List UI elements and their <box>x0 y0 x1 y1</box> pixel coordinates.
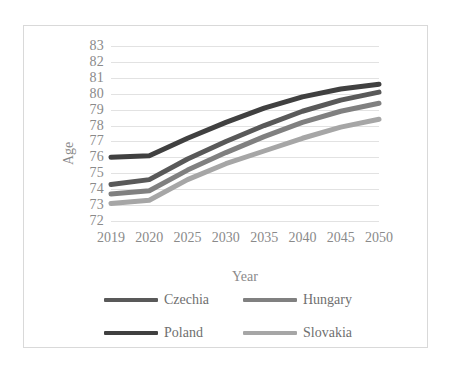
y-tick-label: 74 <box>90 181 104 197</box>
y-tick-label: 75 <box>90 165 104 181</box>
x-tick-label: 2030 <box>212 230 240 246</box>
y-tick-label: 83 <box>90 38 104 54</box>
y-tick-label: 77 <box>90 133 104 149</box>
chart-frame: Age Year 727374757677787980818283 201920… <box>23 25 428 348</box>
y-axis-title: Age <box>61 143 77 165</box>
legend-swatch-icon <box>104 298 158 302</box>
plot-area: 727374757677787980818283 201920202025203… <box>111 46 379 221</box>
y-tick-label: 82 <box>90 54 104 70</box>
legend-label: Hungary <box>303 292 352 308</box>
series-lines <box>111 46 379 221</box>
legend-item-czechia[interactable]: Czechia <box>104 292 225 308</box>
y-tick-label: 79 <box>90 102 104 118</box>
y-tick-label: 78 <box>90 118 104 134</box>
y-tick-label: 80 <box>90 86 104 102</box>
y-tick-label: 76 <box>90 149 104 165</box>
legend-item-poland[interactable]: Poland <box>104 325 225 341</box>
legend-label: Slovakia <box>303 325 352 341</box>
x-tick-label: 2025 <box>174 230 202 246</box>
legend-label: Poland <box>164 325 203 341</box>
gridline <box>111 221 379 222</box>
legend-swatch-icon <box>243 331 297 335</box>
legend-label: Czechia <box>164 292 209 308</box>
legend-swatch-icon <box>104 331 158 335</box>
x-tick-label: 2035 <box>250 230 278 246</box>
chart-legend: CzechiaHungaryPolandSlovakia <box>104 292 364 341</box>
x-tick-label: 2040 <box>288 230 316 246</box>
x-tick-label: 2045 <box>327 230 355 246</box>
x-axis-title: Year <box>111 269 379 285</box>
legend-item-slovakia[interactable]: Slovakia <box>243 325 364 341</box>
series-line-czechia <box>111 92 379 184</box>
x-tick-label: 2019 <box>97 230 125 246</box>
legend-item-hungary[interactable]: Hungary <box>243 292 364 308</box>
x-tick-label: 2050 <box>365 230 393 246</box>
y-tick-label: 81 <box>90 70 104 86</box>
legend-swatch-icon <box>243 298 297 302</box>
y-tick-label: 72 <box>90 213 104 229</box>
x-tick-label: 2020 <box>135 230 163 246</box>
y-tick-label: 73 <box>90 197 104 213</box>
